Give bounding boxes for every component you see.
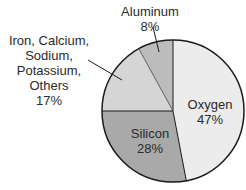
others-label-pct: 17% [0, 93, 98, 108]
aluminum-label-pct: 8% [108, 19, 192, 34]
others-label: Iron, Calcium, Sodium, Potassium, Others… [0, 33, 98, 108]
silicon-label-name: Silicon [120, 126, 180, 141]
silicon-label: Silicon 28% [120, 126, 180, 156]
aluminum-label-name: Aluminum [108, 4, 192, 19]
others-label-line-4: Others [0, 78, 98, 93]
silicon-label-pct: 28% [120, 141, 180, 156]
oxygen-label: Oxygen 47% [180, 97, 240, 127]
others-label-line-3: Potassium, [0, 63, 98, 78]
aluminum-label: Aluminum 8% [108, 4, 192, 34]
oxygen-label-pct: 47% [180, 112, 240, 127]
others-label-line-2: Sodium, [0, 48, 98, 63]
oxygen-label-name: Oxygen [180, 97, 240, 112]
others-label-line-1: Iron, Calcium, [0, 33, 98, 48]
